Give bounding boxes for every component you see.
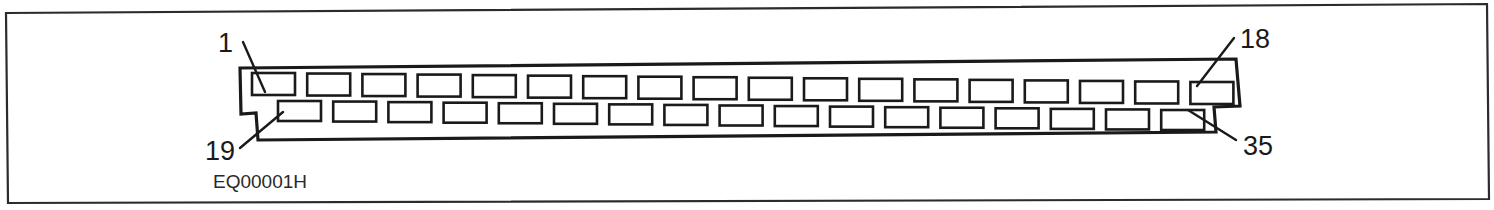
reference-numeral-18: 18 <box>1240 24 1270 54</box>
contact-slot-top-14 <box>970 80 1013 102</box>
contact-slot-bottom-2 <box>333 102 376 122</box>
contact-slot-bottom-16 <box>1106 109 1149 129</box>
contact-slot-top-8 <box>638 77 681 99</box>
contact-slot-bottom-13 <box>940 108 983 128</box>
contact-slot-top-9 <box>694 77 737 99</box>
patent-figure-canvas: 1 18 19 35 EQ00001H <box>0 0 1494 210</box>
contact-slot-bottom-7 <box>609 104 652 124</box>
contact-slot-bottom-17 <box>1161 110 1204 130</box>
contact-slot-top-17 <box>1135 81 1178 103</box>
contact-slot-top-3 <box>362 74 405 96</box>
figure-caption: EQ00001H <box>213 171 307 192</box>
contact-slot-top-15 <box>1025 80 1068 102</box>
contact-slot-top-6 <box>528 76 571 98</box>
reference-numeral-19: 19 <box>205 136 235 166</box>
contact-slot-top-2 <box>307 74 350 96</box>
contact-slot-top-7 <box>583 76 626 98</box>
contact-slot-bottom-5 <box>499 103 542 123</box>
contact-slot-bottom-1 <box>278 101 321 121</box>
contact-slot-top-4 <box>418 75 461 97</box>
reference-numeral-1: 1 <box>218 28 233 58</box>
contact-slot-bottom-3 <box>388 102 431 122</box>
contact-slot-bottom-9 <box>720 106 763 126</box>
contact-slot-bottom-15 <box>1051 109 1094 129</box>
contact-slot-bottom-4 <box>444 103 487 123</box>
contact-slot-top-12 <box>859 79 902 101</box>
contact-slot-top-13 <box>914 79 957 101</box>
contact-slot-bottom-6 <box>554 104 597 124</box>
contact-slot-top-5 <box>473 75 516 97</box>
contact-slot-bottom-12 <box>885 107 928 127</box>
contact-slot-top-10 <box>749 78 792 100</box>
reference-numeral-35: 35 <box>1243 131 1273 161</box>
contact-slot-top-11 <box>804 78 847 100</box>
technical-drawing: 1 18 19 35 EQ00001H <box>0 0 1494 210</box>
contact-slot-bottom-11 <box>830 107 873 127</box>
contact-slot-bottom-10 <box>775 106 818 126</box>
contact-slot-bottom-8 <box>664 105 707 125</box>
contact-slot-bottom-14 <box>996 108 1039 128</box>
contact-slot-top-16 <box>1080 81 1123 103</box>
